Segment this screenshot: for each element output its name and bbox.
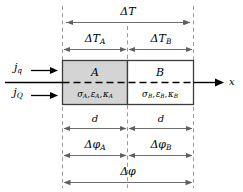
dimension-line-delta-phi-b xyxy=(129,153,193,158)
label-delta-phi-a: ΔφA xyxy=(84,139,105,151)
dimension-line-delta-T-b xyxy=(129,47,193,52)
dimension-line-delta-T-a xyxy=(64,47,127,52)
label-region-a-properties: σA, εA, κA xyxy=(77,90,113,100)
label-flux-Q: jQ xyxy=(13,87,23,99)
diagram-canvas xyxy=(0,0,243,192)
label-x-axis: x xyxy=(229,77,235,87)
flux-arrow-Q xyxy=(31,92,58,99)
dimension-line-thickness-b xyxy=(129,126,193,131)
label-thickness-b: d xyxy=(158,114,164,124)
label-thickness-a: d xyxy=(92,114,98,124)
label-delta-T-b: ΔTB xyxy=(151,33,172,45)
label-delta-T-total: ΔT xyxy=(120,6,135,17)
label-region-a: A xyxy=(91,67,99,78)
label-delta-T-a: ΔTA xyxy=(85,33,106,45)
dimension-line-delta-phi-a xyxy=(64,153,127,158)
label-region-b-properties: σB, εB, κB xyxy=(142,90,178,100)
thermoelectric-slab-diagram: ΔT ΔTA ΔTB jq jQ A B σA, εA, κA σB, εB, … xyxy=(0,0,243,192)
dimension-line-thickness-a xyxy=(64,126,127,131)
label-flux-q: jq xyxy=(14,62,22,74)
label-delta-phi-b: ΔφB xyxy=(150,139,171,151)
flux-arrow-q xyxy=(31,67,58,74)
label-region-b: B xyxy=(156,67,164,78)
label-delta-phi-total: Δφ xyxy=(120,166,136,177)
dimension-line-delta-T-total xyxy=(66,20,190,25)
